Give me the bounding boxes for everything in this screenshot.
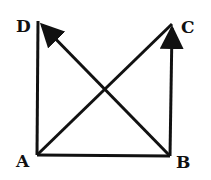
edge-a-d: [37, 21, 38, 155]
edge-b-c-arrow: [170, 28, 172, 156]
vector-diagram: D C A B: [0, 0, 211, 180]
label-d: D: [16, 16, 31, 36]
label-b: B: [176, 152, 190, 172]
edge-a-b: [37, 155, 170, 156]
label-a: A: [15, 151, 30, 171]
label-c: C: [181, 17, 195, 37]
